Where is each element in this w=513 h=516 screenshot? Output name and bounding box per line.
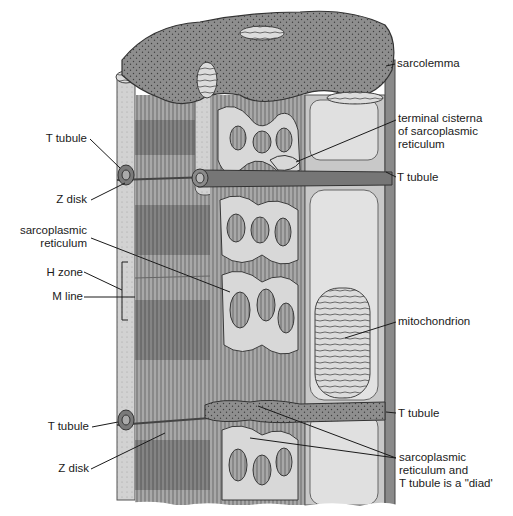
label-t-tubule-lower: T tubule bbox=[48, 420, 89, 433]
label-h-zone: H zone bbox=[47, 266, 83, 279]
sarcoplasm-top-surface bbox=[122, 11, 394, 103]
label-sarcolemma: sarcolemma bbox=[397, 57, 460, 70]
label-z-disk-lower: Z disk bbox=[58, 462, 89, 475]
label-sarcoplasmic-reticulum: sarcoplasmic reticulum bbox=[20, 224, 87, 250]
label-t-tubule-right-lower: T tubule bbox=[398, 407, 439, 420]
sarcolemma-edge bbox=[385, 60, 395, 505]
label-z-disk-upper: Z disk bbox=[56, 193, 87, 206]
label-diad: sarcoplasmic reticulum and T tubule is a… bbox=[399, 451, 493, 490]
left-outer-column bbox=[116, 71, 136, 500]
muscle-fiber-diagram: T tubule Z disk sarcoplasmic reticulum H… bbox=[0, 0, 513, 516]
label-mitochondrion: mitochondrion bbox=[398, 315, 470, 328]
diagram-illustration bbox=[0, 0, 513, 516]
right-column bbox=[305, 60, 395, 505]
label-t-tubule-right-upper: T tubule bbox=[397, 171, 438, 184]
mitochondrion-shape bbox=[315, 288, 370, 398]
label-terminal-cisterna: terminal cisterna of sarcoplasmic reticu… bbox=[398, 112, 482, 151]
label-t-tubule-upper: T tubule bbox=[46, 132, 87, 145]
label-m-line: M line bbox=[52, 290, 83, 303]
